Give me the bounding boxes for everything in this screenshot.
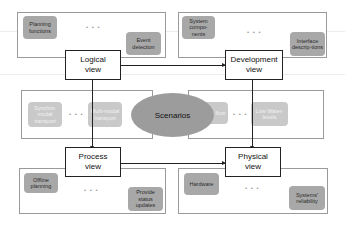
scenarios-ellipse: Scenarios	[131, 93, 214, 137]
ellipsis: • • •	[233, 111, 248, 117]
chip-systems-reliability: Systems' reliability	[289, 186, 325, 210]
process-view-box: Process view	[65, 147, 121, 177]
chip-planning-functions: Planning functions	[23, 16, 57, 39]
ellipsis: • • •	[247, 29, 262, 35]
connector-process-to-physical	[120, 163, 225, 164]
chip-event-detection: Event detection	[126, 32, 161, 55]
connector-logical-to-process	[92, 79, 93, 149]
physical-view-box: Physical view	[225, 147, 281, 177]
connector-development-to-physical	[252, 79, 253, 149]
chip-multi-modal-transport: Multi-modal transport	[88, 102, 122, 127]
ellipsis: • • •	[84, 187, 99, 193]
chip-system-components: System compo-nents	[182, 16, 215, 39]
ellipsis: • • •	[245, 185, 260, 191]
chip-low-water-levels: Low Water-levels	[251, 102, 288, 126]
development-view-box: Development view	[225, 50, 283, 80]
connector-logical-to-development	[120, 65, 225, 66]
chip-offline-planning: Offline planning	[24, 173, 58, 193]
chip-synchro-modal-transport: Synchro-modal transport	[28, 102, 62, 127]
ellipsis: • • •	[69, 111, 84, 117]
ellipsis: • • •	[86, 24, 101, 30]
chip-interface-descriptions: Interface descrip-tions	[290, 32, 325, 56]
chip-hardware: Hardware	[184, 173, 219, 195]
scenarios-label: Scenarios	[155, 111, 191, 120]
background-divider	[0, 74, 345, 75]
chip-provide-status-updates: Provide status updates	[128, 187, 163, 211]
logical-view-box: Logical view	[65, 50, 121, 80]
